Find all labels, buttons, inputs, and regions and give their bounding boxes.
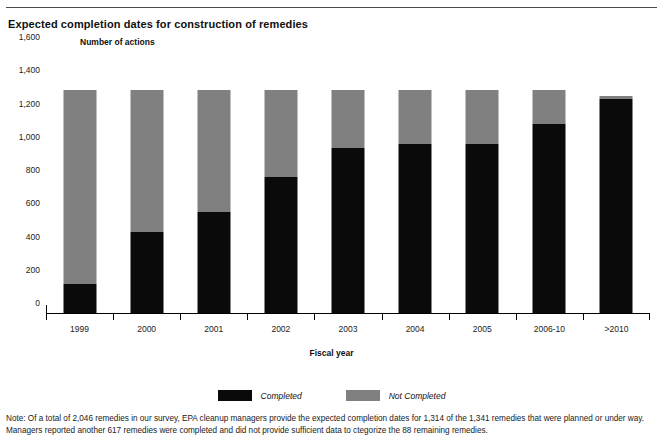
y-axis-line xyxy=(46,305,47,314)
bar-stack[interactable] xyxy=(399,90,432,313)
x-tick-label: 2000 xyxy=(113,324,180,334)
bar-segment-not-completed[interactable] xyxy=(466,90,499,144)
bar-segment-completed[interactable] xyxy=(399,144,432,313)
chart-footnote: Note: Of a total of 2,046 remedies in ou… xyxy=(6,413,656,436)
y-tick-label: 0 xyxy=(35,298,40,308)
y-tick-label: 200 xyxy=(26,265,40,275)
y-tick-label: 800 xyxy=(26,165,40,175)
bar-segment-completed[interactable] xyxy=(63,284,96,313)
x-tick-label: 2003 xyxy=(314,324,381,334)
y-tick-label: 400 xyxy=(26,232,40,242)
bar-segment-not-completed[interactable] xyxy=(399,90,432,144)
bar-group[interactable] xyxy=(583,47,650,313)
x-tick-label: 2001 xyxy=(180,324,247,334)
bar-stack[interactable] xyxy=(600,96,633,313)
bar-segment-not-completed[interactable] xyxy=(264,90,297,177)
x-tick-label: 2005 xyxy=(449,324,516,334)
bar-group[interactable] xyxy=(516,47,583,313)
bar-segment-completed[interactable] xyxy=(533,124,566,313)
bar-stack[interactable] xyxy=(197,90,230,313)
y-tick-label: 1,000 xyxy=(19,132,40,142)
y-axis-title: Number of actions xyxy=(80,37,155,47)
bar-segment-completed[interactable] xyxy=(331,148,364,313)
chart-title: Expected completion dates for constructi… xyxy=(8,18,308,30)
x-axis-tick xyxy=(180,314,181,320)
x-axis-tick xyxy=(46,314,47,320)
x-axis-tick xyxy=(516,314,517,320)
bar-segment-completed[interactable] xyxy=(466,144,499,313)
y-tick-label: 1,400 xyxy=(19,65,40,75)
bar-group[interactable] xyxy=(247,47,314,313)
bar-group[interactable] xyxy=(382,47,449,313)
bar-segment-completed[interactable] xyxy=(600,99,633,313)
y-tick-label: 1,600 xyxy=(19,32,40,42)
bar-stack[interactable] xyxy=(533,90,566,313)
bar-series-layer xyxy=(46,47,650,313)
bar-segment-not-completed[interactable] xyxy=(533,90,566,124)
chart-legend: CompletedNot Completed xyxy=(0,390,663,401)
legend-label: Not Completed xyxy=(389,391,446,401)
footnote-line-1: Note: Of a total of 2,046 remedies in ou… xyxy=(6,413,656,425)
x-tick-label: 2002 xyxy=(247,324,314,334)
bar-group[interactable] xyxy=(449,47,516,313)
bar-stack[interactable] xyxy=(63,90,96,313)
bar-group[interactable] xyxy=(180,47,247,313)
bar-segment-not-completed[interactable] xyxy=(130,90,163,231)
x-axis-tick xyxy=(449,314,450,320)
bar-segment-completed[interactable] xyxy=(130,232,163,313)
x-axis-tick xyxy=(247,314,248,320)
x-axis-tick xyxy=(583,314,584,320)
x-tick-label: >2010 xyxy=(583,324,650,334)
x-axis-tick xyxy=(113,314,114,320)
bar-segment-completed[interactable] xyxy=(197,212,230,313)
y-tick-label: 600 xyxy=(26,198,40,208)
bar-stack[interactable] xyxy=(130,90,163,313)
legend-label: Completed xyxy=(261,391,302,401)
x-tick-label: 1999 xyxy=(46,324,113,334)
legend-swatch xyxy=(218,390,252,401)
legend-item[interactable]: Not Completed xyxy=(346,390,446,401)
bar-group[interactable] xyxy=(113,47,180,313)
bar-segment-not-completed[interactable] xyxy=(331,90,364,148)
x-axis-ticks xyxy=(46,314,650,321)
y-tick-label: 1,200 xyxy=(19,99,40,109)
legend-swatch xyxy=(346,390,380,401)
bar-group[interactable] xyxy=(314,47,381,313)
footnote-line-2: Managers reported another 617 remedies w… xyxy=(6,425,656,437)
bar-stack[interactable] xyxy=(466,90,499,313)
bar-segment-not-completed[interactable] xyxy=(197,90,230,212)
x-tick-label: 2006-10 xyxy=(516,324,583,334)
x-axis-tick xyxy=(314,314,315,320)
x-axis-tick xyxy=(382,314,383,320)
x-axis-tick xyxy=(649,314,650,320)
x-axis-tick-labels: 19992000200120022003200420052006-10>2010 xyxy=(46,324,650,338)
bar-stack[interactable] xyxy=(264,90,297,313)
legend-item[interactable]: Completed xyxy=(218,390,302,401)
bar-group[interactable] xyxy=(46,47,113,313)
x-axis-title: Fiscal year xyxy=(0,348,663,358)
bar-stack[interactable] xyxy=(331,90,364,313)
bar-segment-completed[interactable] xyxy=(264,177,297,313)
plot-area: Number of actions 02004006008001,0001,20… xyxy=(46,46,650,314)
header-divider xyxy=(6,7,657,8)
x-tick-label: 2004 xyxy=(382,324,449,334)
bar-segment-not-completed[interactable] xyxy=(63,90,96,284)
